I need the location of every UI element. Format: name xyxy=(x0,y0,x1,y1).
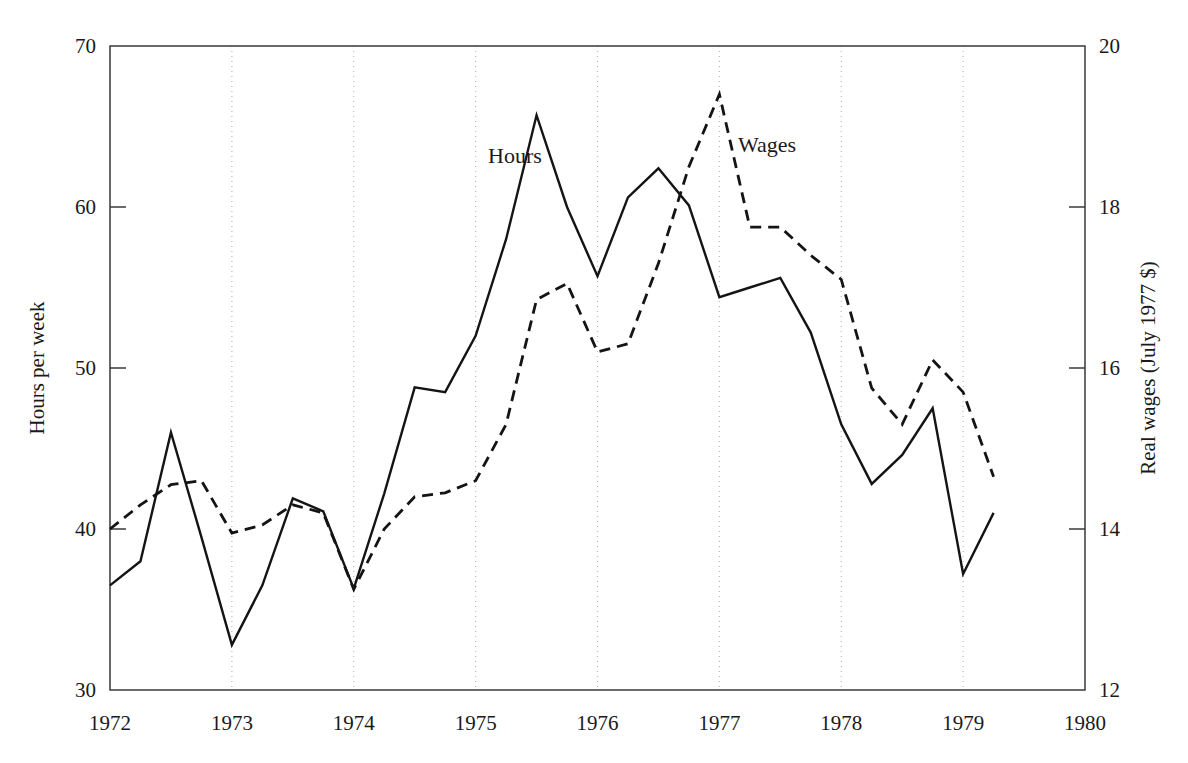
y2-tick-label-14: 14 xyxy=(1099,517,1121,541)
line-chart: 197219731974197519761977197819791980 304… xyxy=(0,0,1188,763)
gridlines-group xyxy=(232,46,963,690)
x-tick-label-1974: 1974 xyxy=(333,711,376,735)
series-label-wages: Wages xyxy=(738,132,796,157)
y-axis-tick-labels: 3040506070 xyxy=(75,34,96,702)
series-paths-group xyxy=(110,94,994,645)
y2-axis-tick-labels: 1214161820 xyxy=(1099,34,1121,702)
y2-tick-label-20: 20 xyxy=(1099,34,1120,58)
y2-axis-title: Real wages (July 1977 $) xyxy=(1136,261,1160,474)
y-tick-label-30: 30 xyxy=(75,678,96,702)
chart-figure: 197219731974197519761977197819791980 304… xyxy=(0,0,1188,763)
x-tick-label-1975: 1975 xyxy=(455,711,497,735)
y-axis-title: Hours per week xyxy=(25,301,49,434)
series-line-hours xyxy=(110,115,994,645)
x-tick-label-1977: 1977 xyxy=(698,711,740,735)
y-tick-label-60: 60 xyxy=(75,195,96,219)
y2-tick-label-18: 18 xyxy=(1099,195,1120,219)
y-tick-label-50: 50 xyxy=(75,356,96,380)
x-tick-label-1972: 1972 xyxy=(89,711,131,735)
y2-tick-label-16: 16 xyxy=(1099,356,1120,380)
x-tick-label-1976: 1976 xyxy=(577,711,619,735)
y2-tick-label-12: 12 xyxy=(1099,678,1120,702)
series-label-hours: Hours xyxy=(488,143,542,168)
x-axis-tick-labels: 197219731974197519761977197819791980 xyxy=(89,711,1106,735)
x-tick-label-1979: 1979 xyxy=(942,711,984,735)
x-tick-label-1978: 1978 xyxy=(820,711,862,735)
x-tick-label-1980: 1980 xyxy=(1064,711,1106,735)
y-tick-label-40: 40 xyxy=(75,517,96,541)
series-line-wages xyxy=(110,94,994,589)
x-tick-label-1973: 1973 xyxy=(211,711,253,735)
y-tick-label-70: 70 xyxy=(75,34,96,58)
